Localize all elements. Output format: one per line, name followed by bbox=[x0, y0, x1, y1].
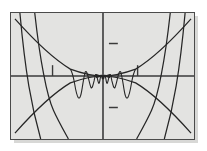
plot-frame bbox=[10, 12, 195, 140]
plot-canvas bbox=[11, 13, 194, 139]
frame-shadow-right bbox=[195, 16, 198, 143]
oscillating-curve-left bbox=[70, 69, 103, 98]
figure-container bbox=[0, 0, 207, 151]
frame-shadow-bottom bbox=[14, 140, 198, 143]
oscillating-curve-right bbox=[103, 69, 136, 98]
